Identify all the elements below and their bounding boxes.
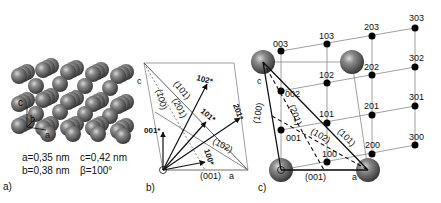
vec-100: 100* xyxy=(202,148,216,167)
axis-a-label: a xyxy=(45,130,50,140)
node-103: 103 xyxy=(319,31,334,41)
b-axis-a: a xyxy=(229,171,234,181)
c-plane-201: (201) xyxy=(287,103,304,126)
param-c: c=0,42 nm xyxy=(80,152,127,163)
panel-a-label: a) xyxy=(3,181,12,192)
node-102: 102 xyxy=(319,70,334,80)
param-b: b=0,38 nm xyxy=(22,165,70,176)
node-200: 200 xyxy=(365,140,380,150)
b-axis-c: c xyxy=(137,76,142,86)
b-plane-001: (001) xyxy=(200,171,221,181)
panel-b-label: b) xyxy=(146,182,155,193)
node-100: 100 xyxy=(322,149,337,159)
c-plane-100: (100) xyxy=(251,102,264,124)
vec-201: 201* xyxy=(231,103,245,122)
axis-c-label: c xyxy=(18,97,23,108)
c-axis-c: c xyxy=(257,76,262,86)
b-plane-102: (102) xyxy=(211,136,234,155)
node-101: 101 xyxy=(319,109,334,119)
b-plane-100: (100) xyxy=(154,88,169,111)
node-303: 303 xyxy=(409,13,424,23)
node-300: 300 xyxy=(409,132,424,142)
node-003: 003 xyxy=(273,39,288,49)
node-201: 201 xyxy=(364,101,379,111)
panel-a-lattice: c b a xyxy=(11,58,134,144)
c-axis-a: a xyxy=(352,172,357,182)
crystal-diagram: c b a a=0,35 nm c=0,42 nm b=0,38 nm β=10… xyxy=(0,0,441,203)
node-301: 301 xyxy=(409,92,424,102)
node-203: 203 xyxy=(364,22,379,32)
panel-c-label: c) xyxy=(258,182,266,193)
vec-102: 102* xyxy=(195,73,214,86)
c-plane-101: (101) xyxy=(336,126,358,148)
param-beta: β=100° xyxy=(80,165,112,176)
axis-b-label: b xyxy=(30,114,35,124)
node-202: 202 xyxy=(364,62,379,72)
c-plane-001: (001) xyxy=(305,172,326,182)
node-302: 302 xyxy=(409,53,424,63)
vec-001: 001* xyxy=(144,126,161,135)
node-001: 001 xyxy=(286,133,301,143)
param-a: a=0,35 nm xyxy=(22,152,70,163)
node-002: 002 xyxy=(285,89,300,99)
